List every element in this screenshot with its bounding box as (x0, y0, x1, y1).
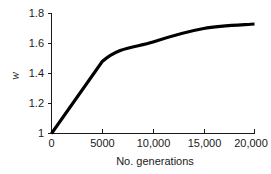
y-tick-label-1-4: 1.4 (29, 67, 44, 79)
y-tick-label-1-8: 1.8 (29, 7, 44, 19)
x-tick-label-15000: 15,000 (188, 137, 222, 149)
x-tick-label-20000: 20,000 (234, 137, 268, 149)
x-tick-label-10000: 10,000 (137, 137, 171, 149)
line-chart-canvas: 1.8 1.6 1.4 1.2 1 0 5000 10,000 15,000 2… (0, 0, 271, 174)
x-tick-label-0: 0 (48, 137, 54, 149)
y-tick-label-1-2: 1.2 (29, 97, 44, 109)
y-axis-ticks (48, 14, 52, 134)
x-axis-title: No. generations (116, 155, 194, 167)
y-tick-label-1-0: 1 (38, 127, 44, 139)
y-axis-title: w (8, 72, 22, 80)
x-tick-label-5000: 5000 (90, 137, 114, 149)
series-line-mean-fitness (52, 24, 255, 134)
x-axis-ticks (52, 129, 255, 134)
y-tick-label-1-6: 1.6 (29, 37, 44, 49)
chart-figure: 1.8 1.6 1.4 1.2 1 0 5000 10,000 15,000 2… (0, 0, 271, 174)
